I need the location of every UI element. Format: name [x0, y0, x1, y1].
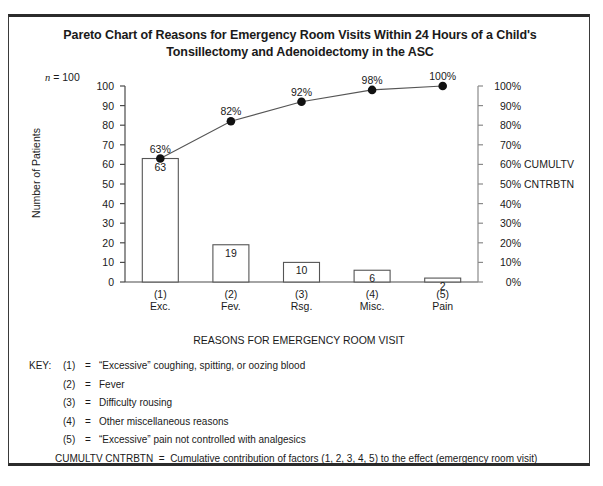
- y-axis-title: Number of Patients: [30, 103, 42, 243]
- key-item-equals: =: [85, 394, 99, 413]
- y-axis-tick-label: 30: [84, 218, 114, 228]
- key-item-text: Fever: [99, 379, 125, 390]
- y-axis-tick-label: 70: [84, 140, 114, 150]
- key-item-number: (5): [63, 431, 85, 450]
- cumulative-marker: [297, 97, 306, 106]
- key-heading: KEY:: [29, 357, 51, 376]
- key-item-number: (2): [63, 376, 85, 395]
- key-item: (4)=Other miscellaneous reasons: [63, 413, 229, 432]
- x-axis-tick-label: (5)Pain: [413, 288, 473, 312]
- y2-axis-tick-label: 80%: [487, 120, 521, 130]
- y2-axis-tick-label: 70%: [487, 140, 521, 150]
- x-axis-tick-label: (4)Misc.: [342, 288, 402, 312]
- y2-axis-tick-label: 40%: [487, 199, 521, 209]
- y-axis-tick-label: 40: [84, 199, 114, 209]
- y-axis-tick-label: 10: [84, 257, 114, 267]
- cumulative-marker: [438, 82, 447, 91]
- key-footer-equals: =: [159, 453, 165, 464]
- y-axis-tick-label: 50: [84, 179, 114, 189]
- key-item-number: (3): [63, 394, 85, 413]
- y-axis-tick-label: 100: [84, 81, 114, 91]
- y-axis-tick-label: 90: [84, 101, 114, 111]
- chart-frame: Pareto Chart of Reasons for Emergency Ro…: [8, 14, 590, 466]
- cumulative-point-label: 98%: [342, 74, 402, 86]
- key-item-number: (1): [63, 357, 85, 376]
- bar: [142, 159, 178, 282]
- key-item: (1)=“Excessive” coughing, spitting, or o…: [63, 357, 305, 376]
- x-axis-tick-label: (2)Fev.: [201, 288, 261, 312]
- x-axis-title: REASONS FOR EMERGENCY ROOM VISIT: [109, 334, 489, 346]
- y2-axis-tick-label: 50%: [487, 179, 521, 189]
- key-item: (5)=“Excessive” pain not controlled with…: [63, 431, 306, 450]
- key-item-equals: =: [85, 376, 99, 395]
- cumulative-point-label: 63%: [130, 143, 190, 155]
- y-axis-tick-label: 80: [84, 120, 114, 130]
- y2-axis-tick-label: 10%: [487, 257, 521, 267]
- cumulative-point-label: 100%: [413, 70, 473, 82]
- key-item-equals: =: [85, 431, 99, 450]
- y2-axis-tick-label: 0%: [487, 277, 521, 287]
- y2-axis-tick-label: 100%: [487, 81, 521, 91]
- key-footer: CUMULTV CNTRBTN = Cumulative contributio…: [55, 450, 537, 469]
- cumulative-point-label: 92%: [272, 86, 332, 98]
- cumulative-marker: [227, 117, 236, 126]
- y2-axis-tick-label: 90%: [487, 101, 521, 111]
- bar-value-label: 6: [342, 272, 402, 284]
- y2-axis-tick-label: 60%: [487, 159, 521, 169]
- key-item-equals: =: [85, 357, 99, 376]
- bar-value-label: 10: [272, 264, 332, 276]
- key-item: (2)=Fever: [63, 376, 125, 395]
- key-item-text: “Excessive” coughing, spitting, or oozin…: [99, 360, 305, 371]
- y2-axis-annotation-cumultv: CUMULTV: [524, 159, 574, 169]
- key-item-text: Other miscellaneous reasons: [99, 416, 229, 427]
- y2-axis-annotation-cntrbtn: CNTRBTN: [524, 179, 574, 189]
- x-axis-tick-label: (3)Rsg.: [272, 288, 332, 312]
- cumulative-point-label: 82%: [201, 105, 261, 117]
- key-footer-label: CUMULTV CNTRBTN: [55, 453, 153, 464]
- y-axis-tick-label: 60: [84, 159, 114, 169]
- key-item-text: “Excessive” pain not controlled with ana…: [99, 434, 306, 445]
- key-item-number: (4): [63, 413, 85, 432]
- y2-axis-tick-label: 20%: [487, 238, 521, 248]
- y-axis-tick-label: 20: [84, 238, 114, 248]
- cumulative-marker: [368, 86, 377, 95]
- y-axis-tick-label: 0: [84, 277, 114, 287]
- y2-axis-tick-label: 30%: [487, 218, 521, 228]
- key-item-text: Difficulty rousing: [99, 397, 172, 408]
- x-axis-tick-label: (1)Exc.: [130, 288, 190, 312]
- key-footer-text: Cumulative contribution of factors (1, 2…: [170, 453, 537, 464]
- key-item-equals: =: [85, 413, 99, 432]
- key-item: (3)=Difficulty rousing: [63, 394, 172, 413]
- bar-value-label: 63: [130, 161, 190, 173]
- bar-value-label: 19: [201, 247, 261, 259]
